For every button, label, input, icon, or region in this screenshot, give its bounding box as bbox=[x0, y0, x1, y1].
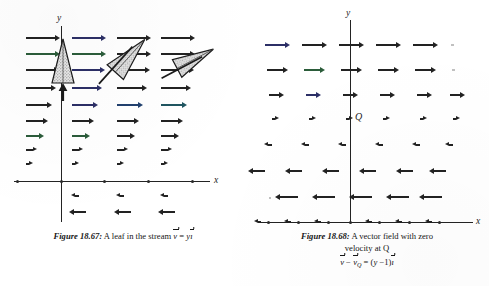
figure-18-68-panel: y x Q bbox=[245, 0, 489, 286]
scan-speck bbox=[451, 44, 454, 46]
x-axis-tick bbox=[378, 221, 381, 224]
figure-18-67-number: Figure 18.67: bbox=[53, 231, 102, 241]
subscript-q: Q bbox=[357, 261, 361, 268]
vector-v-symbol: v bbox=[340, 256, 344, 269]
y-axis-label: y bbox=[57, 14, 61, 24]
vector-vq-symbol: v bbox=[353, 256, 357, 269]
point-label-q: Q bbox=[355, 112, 362, 122]
figure-18-67-panel: y x bbox=[0, 0, 245, 286]
x-axis-tick bbox=[327, 221, 330, 224]
x-axis-label: x bbox=[214, 176, 218, 186]
x-axis-tick bbox=[147, 180, 150, 183]
leaf-stem-arrow bbox=[56, 82, 70, 102]
x-axis-tick bbox=[60, 180, 63, 183]
unit-vector-i: ı bbox=[190, 230, 192, 243]
x-axis-line bbox=[14, 181, 210, 182]
scan-speck bbox=[269, 197, 271, 199]
figure-18-67-caption: Figure 18.67: A leaf in the stream v = y… bbox=[8, 230, 238, 243]
x-axis-tick bbox=[16, 180, 19, 183]
figure-18-68-caption-line1: A vector field with zero bbox=[351, 231, 433, 241]
scan-speck bbox=[452, 69, 455, 71]
x-axis-tick bbox=[349, 221, 352, 224]
x-axis-tick bbox=[438, 221, 441, 224]
figure-18-68-caption: Figure 18.68: A vector field with zero v… bbox=[251, 231, 483, 269]
figure-18-68-number: Figure 18.68: bbox=[301, 231, 350, 241]
variable-y: y bbox=[373, 257, 377, 267]
x-axis-tick bbox=[408, 221, 411, 224]
minus-sign: − bbox=[346, 257, 351, 267]
x-axis-tick bbox=[191, 180, 194, 183]
vector-v-symbol: v bbox=[173, 230, 177, 243]
equals-sign: = bbox=[179, 231, 184, 241]
x-axis-tick bbox=[103, 180, 106, 183]
equals-sign: = bbox=[364, 257, 369, 267]
x-axis-tick bbox=[297, 221, 300, 224]
x-axis-label: x bbox=[476, 217, 480, 227]
unit-vector-i: ı bbox=[391, 256, 393, 269]
x-axis-tick bbox=[267, 221, 270, 224]
figure-18-67-caption-text: A leaf in the stream bbox=[104, 231, 171, 241]
y-axis-line bbox=[350, 20, 351, 223]
figure-18-67-plot: y x bbox=[0, 0, 245, 286]
figure-18-68-caption-line2: velocity at Q bbox=[251, 243, 483, 255]
y-axis-label: y bbox=[346, 9, 350, 19]
figure-18-68-formula: v − vQ = (y −1)ı bbox=[251, 254, 483, 269]
